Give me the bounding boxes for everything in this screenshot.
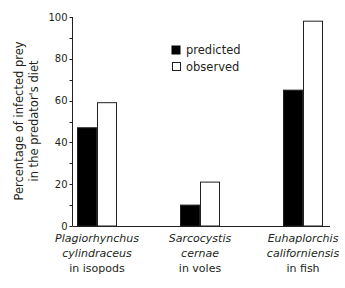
legend-swatch-predicted bbox=[172, 46, 180, 54]
bar-observed-3 bbox=[304, 21, 323, 226]
category-label-2-host: in voles bbox=[145, 261, 255, 276]
bar-observed-1 bbox=[98, 103, 117, 226]
legend: predicted observed bbox=[172, 43, 241, 74]
bar-predicted-2 bbox=[181, 205, 200, 226]
category-label-2-genus: Sarcocystis bbox=[145, 231, 255, 246]
category-label-1-species: cylindraceus bbox=[42, 246, 152, 261]
category-label-2-species: cernae bbox=[145, 246, 255, 261]
bar-observed-2 bbox=[201, 182, 220, 226]
category-label-1-genus: Plagiorhynchus bbox=[42, 231, 152, 246]
y-axis-label: Percentage of infected prey in the preda… bbox=[12, 41, 41, 200]
y-tick-label: 100 bbox=[48, 12, 67, 23]
y-axis-label-line1: Percentage of infected prey bbox=[12, 41, 26, 200]
y-axis-label-line2: in the predator's diet bbox=[27, 60, 41, 182]
legend-label-predicted: predicted bbox=[186, 43, 241, 57]
y-tick-label: 0 bbox=[61, 221, 67, 232]
category-label-3-host: in fish bbox=[248, 261, 345, 276]
category-label-1: Plagiorhynchus cylindraceus in isopods bbox=[42, 231, 152, 276]
y-axis: 020406080100 bbox=[48, 12, 72, 232]
y-tick-label: 60 bbox=[55, 95, 68, 106]
category-label-3-genus: Euhaplorchis bbox=[248, 231, 345, 246]
legend-swatch-observed bbox=[173, 63, 181, 71]
category-label-3-species: californiensis bbox=[248, 246, 345, 261]
bar-predicted-3 bbox=[284, 90, 303, 226]
category-label-1-host: in isopods bbox=[42, 261, 152, 276]
y-tick-label: 20 bbox=[55, 179, 68, 190]
y-tick-label: 40 bbox=[55, 137, 68, 148]
legend-label-observed: observed bbox=[186, 60, 239, 74]
y-tick-label: 80 bbox=[55, 53, 68, 64]
category-label-2: Sarcocystis cernae in voles bbox=[145, 231, 255, 276]
bar-predicted-1 bbox=[78, 128, 97, 226]
category-label-3: Euhaplorchis californiensis in fish bbox=[248, 231, 345, 276]
